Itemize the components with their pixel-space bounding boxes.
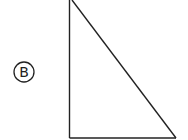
diagram-canvas: B [0, 0, 188, 140]
triangle-hypotenuse [72, 0, 176, 138]
option-letter: B [19, 64, 29, 80]
right-triangle [70, 0, 177, 138]
option-marker: B [14, 62, 34, 82]
